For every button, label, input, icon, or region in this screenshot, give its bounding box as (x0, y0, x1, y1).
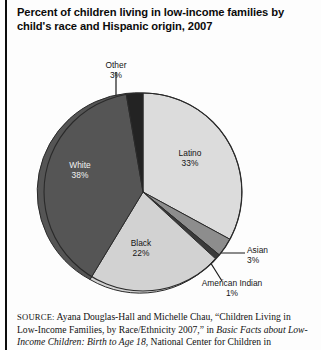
pie-chart: Other 3% Latino 33% White 38% Black 22% … (0, 48, 321, 298)
slice-label-latino-pct: 33% (164, 158, 216, 168)
figure-page: Percent of children living in low-income… (0, 0, 321, 350)
source-prefix: SOURCE: (17, 312, 55, 322)
source-line1: Ayana Douglas-Hall and Michelle Chau, “C… (57, 311, 291, 322)
slice-label-asian-name: Asian (247, 245, 268, 255)
slice-label-other-name: Other (106, 60, 127, 70)
source-note: SOURCE: Ayana Douglas-Hall and Michelle … (17, 311, 313, 349)
slice-label-american-indian: American Indian 1% (184, 278, 280, 298)
source-line2-a: Low-Income Families, by Race/Ethnicity 2… (17, 324, 216, 335)
slice-label-other: Other 3% (93, 60, 139, 80)
slice-label-american-indian-pct: 1% (184, 288, 280, 298)
slice-label-latino: Latino 33% (164, 148, 216, 168)
slice-label-asian: Asian 3% (247, 245, 287, 265)
slice-label-white-pct: 38% (56, 170, 104, 180)
slice-label-white: White 38% (56, 160, 104, 180)
slice-label-black: Black 22% (117, 238, 165, 258)
slice-label-american-indian-name: American Indian (202, 278, 263, 288)
slice-label-white-name: White (69, 160, 90, 170)
slice-label-black-pct: 22% (117, 248, 165, 258)
slice-label-black-name: Black (131, 238, 151, 248)
slice-label-latino-name: Latino (179, 148, 202, 158)
slice-label-other-pct: 3% (93, 70, 139, 80)
source-line2-italic: Basic Facts about (216, 324, 285, 335)
slice-label-asian-pct: 3% (247, 255, 287, 265)
source-line3-b: , National Center for Children in (146, 336, 271, 347)
chart-title: Percent of children living in low-income… (17, 6, 309, 33)
